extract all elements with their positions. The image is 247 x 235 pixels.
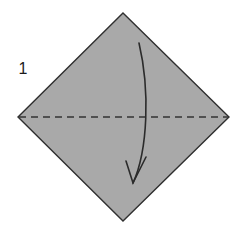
diagram-canvas — [0, 0, 247, 235]
origami-diagram: 1 — [0, 0, 247, 235]
step-number-label: 1 — [14, 60, 32, 78]
